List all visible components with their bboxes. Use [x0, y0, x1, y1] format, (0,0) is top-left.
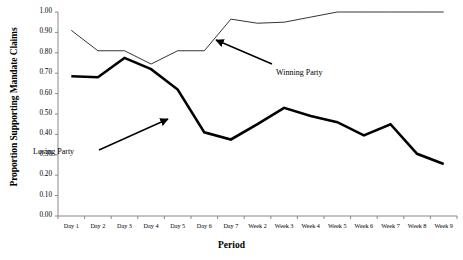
annotation-winning-party: Winning Party [276, 68, 323, 77]
chart-container: Proportion Supporting Mandate Claims Per… [0, 0, 463, 260]
annotation-losing-party: Losing Party [33, 147, 74, 156]
losing-party-arrow [99, 119, 168, 150]
series-line-winning-party [71, 12, 443, 64]
plot-area [0, 0, 463, 260]
winning-party-arrow [216, 40, 272, 64]
series-line-losing-party [71, 58, 443, 164]
